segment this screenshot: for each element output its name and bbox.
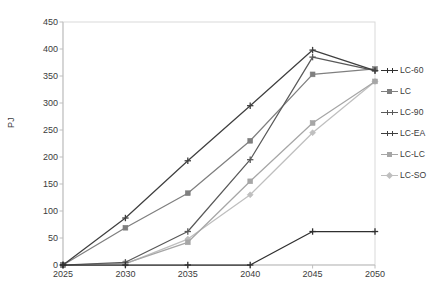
x-axis-tick-label: 2040 [226, 270, 274, 279]
series-lc-lc [61, 79, 378, 267]
series-lc-so [60, 78, 378, 268]
legend-swatch-icon [381, 150, 398, 160]
legend-swatch-icon [381, 66, 398, 76]
data-point-marker [373, 79, 378, 84]
x-axis-tick-label: 2030 [101, 270, 149, 279]
legend-item-lc-60[interactable]: LC-60 [381, 60, 426, 81]
x-axis-tick-label: 2035 [164, 270, 212, 279]
legend-item-lc-so[interactable]: LC-SO [381, 165, 426, 186]
data-point-marker [310, 121, 315, 126]
series-lc [61, 67, 378, 268]
x-axis-tick-label: 2045 [289, 270, 337, 279]
data-point-marker [248, 179, 253, 184]
legend-swatch-icon [381, 87, 398, 97]
x-axis-tick-label: 2025 [39, 270, 87, 279]
plot-area [0, 0, 439, 293]
legend-swatch-icon [381, 171, 398, 181]
series-line [63, 50, 375, 265]
legend-label: LC-LC [400, 150, 425, 159]
data-point-marker [248, 138, 253, 143]
data-point-marker [185, 240, 190, 245]
legend-item-lc-ea[interactable]: LC-EA [381, 123, 426, 144]
chart-container: PJ 050100150200250300350400450 202520302… [0, 0, 439, 293]
legend-label: LC-90 [400, 108, 423, 117]
legend-swatch-icon [381, 129, 398, 139]
data-point-marker [123, 225, 128, 230]
series-line [63, 57, 375, 265]
data-point-marker [310, 72, 315, 77]
legend-item-lc[interactable]: LC [381, 81, 426, 102]
chart-legend: LC-60LCLC-90LC-EALC-LCLC-SO [381, 60, 426, 186]
legend-item-lc-90[interactable]: LC-90 [381, 102, 426, 123]
legend-label: LC-60 [400, 66, 423, 75]
plot-frame [63, 22, 375, 265]
legend-label: LC-SO [400, 171, 426, 180]
legend-swatch-icon [381, 108, 398, 118]
series-lc-90 [60, 54, 378, 268]
series-lc-60 [60, 228, 378, 268]
legend-item-lc-lc[interactable]: LC-LC [381, 144, 426, 165]
legend-label: LC [400, 87, 411, 96]
x-axis-tick-label: 2050 [351, 270, 399, 279]
legend-label: LC-EA [400, 129, 425, 138]
series-lc-ea [60, 47, 378, 268]
data-point-marker [185, 191, 190, 196]
series-line [63, 69, 375, 265]
